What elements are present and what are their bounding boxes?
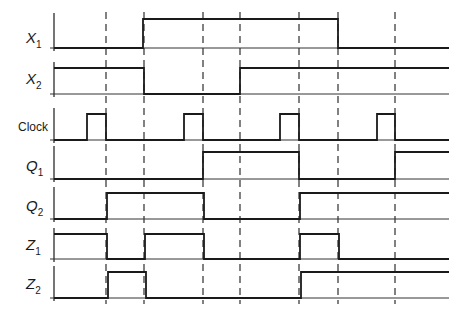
waveform-x1 [54, 19, 449, 48]
waveform-q1 [54, 152, 449, 179]
clock-edge-dashed-lines [106, 12, 395, 304]
waveform-q2 [54, 193, 449, 219]
signal-label-subscript: 1 [35, 246, 41, 257]
signal-label-x1: X1 [25, 29, 42, 50]
signal-label-x2: X2 [25, 70, 42, 91]
signal-label-subscript: 1 [36, 39, 42, 50]
signal-z1: Z1 [25, 228, 449, 262]
timing-diagram: X1X2ClockQ1Q2Z1Z2 [0, 0, 469, 313]
signal-label-z1: Z1 [25, 236, 41, 257]
signal-label-z2: Z2 [25, 275, 41, 296]
signal-label-q1: Q1 [26, 157, 44, 178]
waveform-clock [54, 114, 449, 140]
waveform-z1 [54, 234, 449, 259]
signal-label-q2: Q2 [26, 197, 44, 218]
signal-q1: Q1 [26, 146, 449, 182]
signal-q2: Q2 [26, 187, 449, 222]
signal-traces: X1X2ClockQ1Q2Z1Z2 [18, 13, 449, 301]
signal-label-clock: Clock [18, 120, 49, 134]
signal-label-subscript: 2 [36, 80, 42, 91]
signal-label-subscript: 2 [38, 207, 44, 218]
signal-label-subscript: 1 [38, 167, 44, 178]
signal-label-subscript: 2 [35, 285, 41, 296]
signal-x2: X2 [25, 62, 449, 97]
signal-z2: Z2 [25, 266, 449, 301]
signal-x1: X1 [25, 13, 449, 51]
waveform-z2 [54, 272, 449, 298]
signal-clock: Clock [18, 108, 449, 143]
waveform-x2 [54, 68, 449, 94]
